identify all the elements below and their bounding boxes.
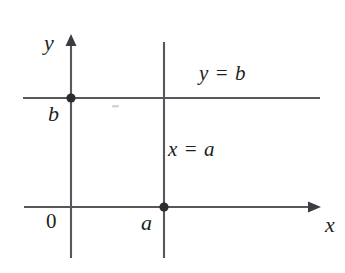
y-axis-tick-label-b: b <box>48 103 59 125</box>
point-marker-a <box>159 202 168 211</box>
y-axis-label: y <box>44 32 54 54</box>
x-axis-label: x <box>325 214 335 236</box>
x-axis-tick-label-a: a <box>141 212 152 234</box>
coordinate-plane-figure: y x b 0 a y = b x = a <box>0 0 345 273</box>
origin-label: 0 <box>46 211 57 232</box>
y-axis-arrow-icon <box>66 34 77 46</box>
scan-artifact-mark <box>112 105 119 107</box>
point-marker-b <box>66 93 75 102</box>
equation-label-x-equals-a: x = a <box>168 139 215 160</box>
equation-label-y-equals-b: y = b <box>199 63 246 84</box>
x-axis-arrow-icon <box>308 202 321 213</box>
